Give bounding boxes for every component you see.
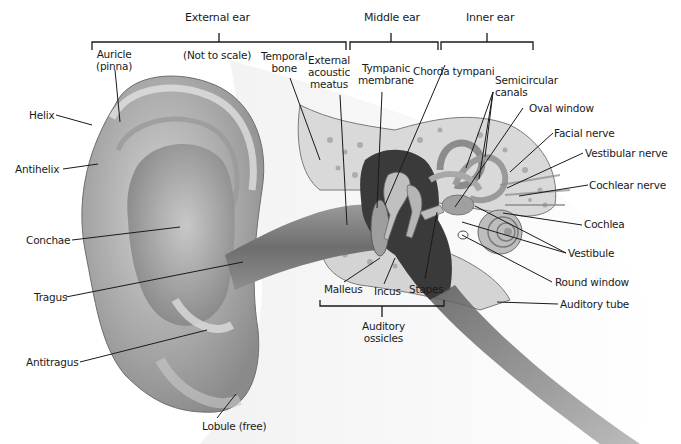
label-antihelix: Antihelix — [15, 163, 59, 175]
label-antitragus: Antitragus — [26, 356, 79, 368]
label-vestibular-nerve: Vestibular nerve — [585, 147, 668, 159]
label-cochlea: Cochlea — [584, 218, 625, 230]
label-external-acoustic-meatus: External acoustic meatus — [308, 54, 350, 90]
label-round-window: Round window — [555, 276, 629, 288]
region-inner-ear-label: Inner ear — [466, 12, 514, 24]
label-conchae: Conchae — [26, 234, 70, 246]
label-auditory-tube: Auditory tube — [560, 298, 629, 310]
region-external-ear-label: External ear — [185, 12, 250, 24]
label-malleus: Malleus — [324, 283, 363, 295]
label-auditory-ossicles: Auditory ossicles — [362, 320, 405, 344]
label-tragus: Tragus — [34, 291, 67, 303]
not-to-scale-note: (Not to scale) — [183, 49, 251, 61]
label-vestibule: Vestibule — [568, 247, 614, 259]
label-semicircular-canals: Semicircular canals — [495, 74, 558, 98]
label-incus: Incus — [374, 285, 401, 297]
label-tympanic-membrane: Tympanic membrane — [358, 62, 414, 86]
label-auricle: Auricle (pinna) — [96, 48, 132, 72]
cochlea-shape — [478, 210, 522, 254]
auricle-shape — [82, 76, 264, 412]
label-stapes: Stapes — [409, 283, 444, 295]
label-oval-window: Oval window — [529, 102, 594, 114]
region-middle-ear-label: Middle ear — [364, 12, 420, 24]
label-facial-nerve: Facial nerve — [554, 127, 615, 139]
label-helix: Helix — [29, 109, 54, 121]
label-lobule: Lobule (free) — [202, 420, 266, 432]
label-chorda-tympani: Chorda tympani — [413, 65, 494, 77]
label-temporal-bone: Temporal bone — [261, 50, 307, 74]
label-cochlear-nerve: Cochlear nerve — [589, 179, 666, 191]
